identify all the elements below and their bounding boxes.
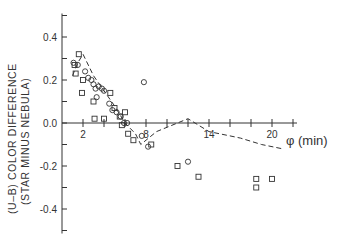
svg-text:8: 8 (143, 129, 149, 140)
y-axis-label-line1: (U–B) COLOR DIFFERENCE (6, 63, 18, 214)
svg-text:14: 14 (203, 129, 215, 140)
svg-text:20: 20 (266, 129, 278, 140)
svg-text:2: 2 (80, 129, 86, 140)
svg-text:-0.2: -0.2 (40, 161, 58, 172)
svg-text:0.0: 0.0 (43, 118, 57, 129)
svg-text:0.4: 0.4 (43, 32, 57, 43)
y-axis-label: (U–B) COLOR DIFFERENCE (STAR MINUS NEBUL… (2, 38, 30, 228)
x-axis-label: φ (min) (286, 133, 328, 148)
svg-text:-0.4: -0.4 (40, 204, 58, 215)
scatter-chart: 0.40.20.0-0.2-0.4281420 φ (min) (0, 0, 348, 244)
circle-markers (71, 60, 191, 164)
axes (62, 14, 297, 234)
square-markers (72, 52, 274, 190)
y-axis-label-line2: (STAR MINUS NEBULA) (19, 78, 31, 205)
svg-text:0.2: 0.2 (43, 75, 57, 86)
dashed-trend-curve (73, 54, 283, 149)
